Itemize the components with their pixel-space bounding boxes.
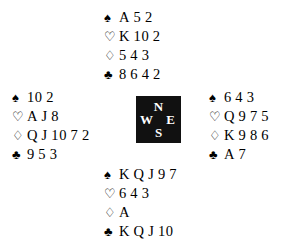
south-heart-row: ♡ 643 xyxy=(104,184,177,203)
card-rank: K xyxy=(224,127,235,143)
west-heart-ranks: AJ8 xyxy=(27,107,59,126)
diamond-icon: ♢ xyxy=(209,126,224,145)
card-rank: 10 xyxy=(134,28,150,44)
card-rank: 2 xyxy=(153,28,161,44)
east-spade-ranks: 643 xyxy=(224,88,255,107)
card-rank: 3 xyxy=(50,146,58,162)
card-rank: 4 xyxy=(142,66,150,82)
card-rank: 9 xyxy=(239,127,247,143)
west-diamond-ranks: QJ1072 xyxy=(27,126,90,145)
west-club-ranks: 953 xyxy=(27,145,58,164)
heart-icon: ♡ xyxy=(12,107,27,126)
spade-icon: ♠ xyxy=(12,88,27,107)
west-spade-row: ♠ 102 xyxy=(12,88,90,107)
card-rank: A xyxy=(27,108,38,124)
card-rank: 9 xyxy=(158,166,166,182)
west-diamond-row: ♢ QJ1072 xyxy=(12,126,90,145)
card-rank: 8 xyxy=(51,108,59,124)
card-rank: 2 xyxy=(82,127,90,143)
card-rank: Q xyxy=(134,166,145,182)
compass-west-label: W xyxy=(140,113,153,126)
east-heart-ranks: Q975 xyxy=(224,107,269,126)
card-rank: Q xyxy=(134,223,145,239)
card-rank: 2 xyxy=(46,89,54,105)
north-diamond-row: ♢ 543 xyxy=(104,46,161,65)
south-heart-ranks: 643 xyxy=(119,184,150,203)
card-rank: 4 xyxy=(130,47,138,63)
card-rank: 8 xyxy=(250,127,258,143)
card-rank: 9 xyxy=(27,146,35,162)
card-rank: 3 xyxy=(142,47,150,63)
compass-east-label: E xyxy=(164,113,177,126)
card-rank: 7 xyxy=(71,127,79,143)
card-rank: J xyxy=(42,127,48,143)
card-rank: 4 xyxy=(235,89,243,105)
hand-east: ♠ 643 ♡ Q975 ♢ K986 ♣ A7 xyxy=(209,88,269,164)
spade-icon: ♠ xyxy=(104,8,119,27)
north-diamond-ranks: 543 xyxy=(119,46,150,65)
diamond-icon: ♢ xyxy=(104,46,119,65)
south-spade-row: ♠ KQJ97 xyxy=(104,165,177,184)
card-rank: 7 xyxy=(169,166,177,182)
card-rank: 10 xyxy=(51,127,67,143)
compass-south-label: S xyxy=(136,126,181,139)
heart-icon: ♡ xyxy=(209,107,224,126)
card-rank: 7 xyxy=(239,146,247,162)
card-rank: 9 xyxy=(239,108,247,124)
diamond-icon: ♢ xyxy=(12,126,27,145)
hand-south: ♠ KQJ97 ♡ 643 ♢ A ♣ KQJ10 xyxy=(104,165,177,241)
club-icon: ♣ xyxy=(104,222,119,241)
card-rank: J xyxy=(148,166,154,182)
card-rank: 2 xyxy=(145,9,153,25)
club-icon: ♣ xyxy=(209,145,224,164)
card-rank: 5 xyxy=(134,9,142,25)
club-icon: ♣ xyxy=(12,145,27,164)
west-spade-ranks: 102 xyxy=(27,88,54,107)
hand-north: ♠ A52 ♡ K102 ♢ 543 ♣ 8642 xyxy=(104,8,161,84)
south-diamond-row: ♢ A xyxy=(104,203,177,222)
card-rank: J xyxy=(148,223,154,239)
east-diamond-row: ♢ K986 xyxy=(209,126,269,145)
compass-box: N W E S xyxy=(136,96,181,143)
card-rank: 10 xyxy=(158,223,174,239)
south-diamond-ranks: A xyxy=(119,203,130,222)
east-spade-row: ♠ 643 xyxy=(209,88,269,107)
east-diamond-ranks: K986 xyxy=(224,126,269,145)
card-rank: K xyxy=(119,166,130,182)
card-rank: 7 xyxy=(250,108,258,124)
bridge-deal-diagram: ♠ A52 ♡ K102 ♢ 543 ♣ 8642 ♠ 102 ♡ AJ8 ♢ … xyxy=(0,0,303,252)
west-club-row: ♣ 953 xyxy=(12,145,90,164)
spade-icon: ♠ xyxy=(104,165,119,184)
north-club-ranks: 8642 xyxy=(119,65,161,84)
east-club-row: ♣ A7 xyxy=(209,145,269,164)
card-rank: 3 xyxy=(142,185,150,201)
card-rank: 6 xyxy=(130,66,138,82)
north-heart-row: ♡ K102 xyxy=(104,27,161,46)
card-rank: K xyxy=(119,28,130,44)
card-rank: 6 xyxy=(119,185,127,201)
card-rank: 2 xyxy=(153,66,161,82)
south-spade-ranks: KQJ97 xyxy=(119,165,177,184)
heart-icon: ♡ xyxy=(104,184,119,203)
card-rank: A xyxy=(119,9,130,25)
card-rank: 5 xyxy=(261,108,269,124)
card-rank: 3 xyxy=(247,89,255,105)
north-club-row: ♣ 8642 xyxy=(104,65,161,84)
card-rank: 5 xyxy=(119,47,127,63)
card-rank: 6 xyxy=(261,127,269,143)
club-icon: ♣ xyxy=(104,65,119,84)
south-club-ranks: KQJ10 xyxy=(119,222,174,241)
hand-west: ♠ 102 ♡ AJ8 ♢ QJ1072 ♣ 953 xyxy=(12,88,90,164)
south-club-row: ♣ KQJ10 xyxy=(104,222,177,241)
spade-icon: ♠ xyxy=(209,88,224,107)
north-spade-ranks: A52 xyxy=(119,8,153,27)
card-rank: 6 xyxy=(224,89,232,105)
card-rank: 4 xyxy=(130,185,138,201)
card-rank: 8 xyxy=(119,66,127,82)
heart-icon: ♡ xyxy=(104,27,119,46)
card-rank: A xyxy=(224,146,235,162)
north-heart-ranks: K102 xyxy=(119,27,161,46)
east-heart-row: ♡ Q975 xyxy=(209,107,269,126)
west-heart-row: ♡ AJ8 xyxy=(12,107,90,126)
east-club-ranks: A7 xyxy=(224,145,246,164)
